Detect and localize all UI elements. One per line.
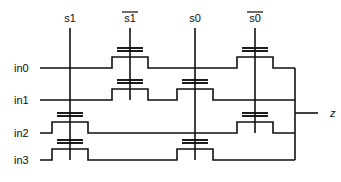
- schematic-canvas: in0in1in2in3 s1s1s0s0 z: [0, 0, 341, 182]
- input-label-in2: in2: [14, 127, 29, 139]
- input-rail-in3: [40, 149, 295, 160]
- control-label-s1_bar: s1: [124, 12, 136, 24]
- input-labels-group: in0in1in2in3: [14, 62, 29, 166]
- output-label-z: z: [329, 107, 336, 119]
- control-lines-group: [70, 28, 255, 160]
- input-rail-in0: [40, 57, 295, 68]
- input-label-in0: in0: [14, 62, 29, 74]
- input-label-in1: in1: [14, 94, 29, 106]
- circuit-diagram: in0in1in2in3 s1s1s0s0 z: [0, 0, 341, 182]
- control-label-s0: s0: [189, 12, 201, 24]
- output-label-group: z: [329, 107, 336, 119]
- control-label-s1: s1: [64, 12, 76, 24]
- output-bus-group: [295, 68, 318, 160]
- input-rail-in1: [40, 89, 295, 100]
- input-label-in3: in3: [14, 154, 29, 166]
- input-rails-group: [40, 57, 295, 160]
- control-label-s0_bar: s0: [249, 12, 261, 24]
- control-labels-group: s1s1s0s0: [64, 12, 263, 24]
- input-rail-in2: [40, 122, 295, 133]
